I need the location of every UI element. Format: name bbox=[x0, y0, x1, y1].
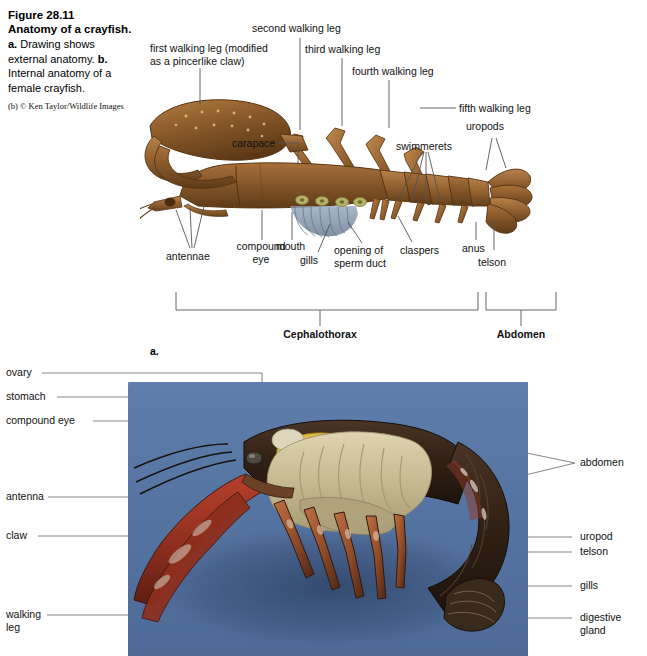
label-carapace: carapace bbox=[232, 137, 275, 150]
figure-number: Figure 28.11 bbox=[8, 8, 133, 22]
label-walking-leg: walkingleg bbox=[6, 608, 56, 633]
label-claw: claw bbox=[6, 529, 27, 542]
label-abdomen-region: Abdomen bbox=[486, 328, 556, 341]
label-cephalothorax: Cephalothorax bbox=[260, 328, 380, 341]
label-antennae: antennae bbox=[166, 250, 210, 263]
label-uropods: uropods bbox=[466, 120, 504, 133]
label-first-walking-leg: first walking leg (modifiedas a pincerli… bbox=[150, 42, 270, 67]
label-compound-eye-b: compound eye bbox=[6, 414, 75, 427]
label-claspers: claspers bbox=[400, 244, 439, 257]
region-brackets bbox=[176, 292, 556, 326]
label-abdomen-photo: abdomen bbox=[580, 456, 624, 469]
label-gills-a: gills bbox=[300, 254, 318, 267]
part-b-description: Internal anatomy of a female crayfish. bbox=[8, 67, 111, 94]
figure-28-11: Figure 28.11 Anatomy of a crayfish. a. D… bbox=[0, 0, 647, 656]
figure-caption: Figure 28.11 Anatomy of a crayfish. a. D… bbox=[8, 8, 133, 112]
label-fifth-walking-leg: fifth walking leg bbox=[459, 102, 531, 115]
label-telson-b: telson bbox=[580, 545, 608, 558]
part-a-description: Drawing shows external anatomy. bbox=[8, 38, 98, 65]
label-swimmerets: swimmerets bbox=[396, 140, 452, 153]
figure-title: Anatomy of a crayfish. bbox=[8, 22, 133, 36]
label-second-walking-leg: second walking leg bbox=[252, 22, 341, 35]
label-mouth: mouth bbox=[276, 240, 305, 253]
label-gills-b: gills bbox=[580, 579, 598, 592]
label-antenna: antenna bbox=[6, 490, 44, 503]
photo-credit: (b) © Ken Taylor/Wildlife Images bbox=[8, 101, 133, 112]
label-uropod: uropod bbox=[580, 530, 613, 543]
label-anus: anus bbox=[462, 242, 485, 255]
figure-description: a. Drawing shows external anatomy. b. In… bbox=[8, 37, 133, 95]
crayfish-specimen bbox=[128, 382, 528, 656]
label-digestive-gland: digestivegland bbox=[580, 611, 644, 636]
label-telson-a: telson bbox=[478, 256, 506, 269]
part-a-marker: a. bbox=[150, 345, 159, 357]
label-stomach: stomach bbox=[6, 390, 46, 403]
label-opening-of-sperm-duct: opening ofsperm duct bbox=[334, 244, 396, 269]
label-fourth-walking-leg: fourth walking leg bbox=[352, 65, 434, 78]
part-b-prefix: b. bbox=[98, 53, 108, 65]
label-ovary: ovary bbox=[6, 366, 32, 379]
label-third-walking-leg: third walking leg bbox=[305, 43, 380, 56]
crayfish-dissection-photo bbox=[128, 382, 528, 656]
part-a-prefix: a. bbox=[8, 38, 17, 50]
